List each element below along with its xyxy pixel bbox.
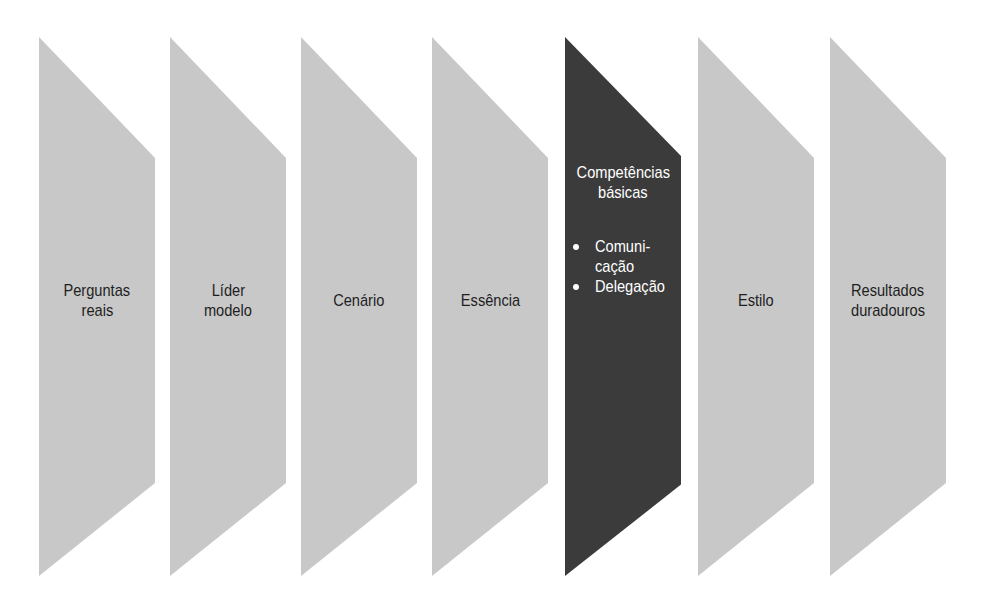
process-diagram: Perguntas reais Líder modelo Cenário Ess… [0,0,982,607]
step-essencia: Essência [432,37,548,576]
step-resultados-duradouros: Resultados duradouros [830,37,946,576]
step-label: Líder modelo [170,281,286,321]
bullet-item: Comuni- cação [565,237,681,277]
step-label: Estilo [698,291,814,311]
step-perguntas-reais: Perguntas reais [39,37,155,576]
step-label: Perguntas reais [39,281,155,321]
step-label: Essência [432,291,548,311]
step-label: Resultados duradouros [830,281,946,321]
bullet-dot-icon [573,284,579,290]
chevron-shape [565,37,681,576]
step-label: Cenário [301,291,417,311]
step-label: Competências básicas [565,163,681,203]
step-cenario: Cenário [301,37,417,576]
step-estilo: Estilo [698,37,814,576]
bullet-dot-icon [573,244,579,250]
step-competencias-basicas-active: Competências básicas Comuni- cação Deleg… [565,37,681,576]
bullet-list: Comuni- cação Delegação [565,237,681,297]
bullet-item: Delegação [565,277,681,297]
step-lider-modelo: Líder modelo [170,37,286,576]
